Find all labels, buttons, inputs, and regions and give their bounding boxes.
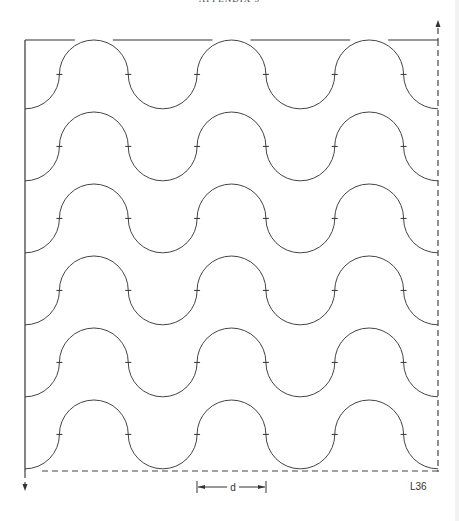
wave-row [25, 256, 438, 325]
wave-row [25, 184, 438, 253]
wave-row [25, 112, 438, 181]
up-arrow-icon [436, 20, 441, 40]
wave-row [25, 400, 438, 469]
wave-rows [25, 40, 438, 469]
arrowhead-left-icon [198, 485, 205, 489]
figure-code: L36 [410, 481, 427, 492]
wave-pattern-diagram: d L36 [0, 0, 459, 521]
down-arrow-icon [23, 472, 28, 491]
dimension-d: d [197, 481, 266, 493]
wave-row [25, 40, 438, 109]
wave-row [25, 328, 438, 397]
dimension-label: d [230, 482, 236, 493]
arrowhead-right-icon [258, 485, 265, 489]
